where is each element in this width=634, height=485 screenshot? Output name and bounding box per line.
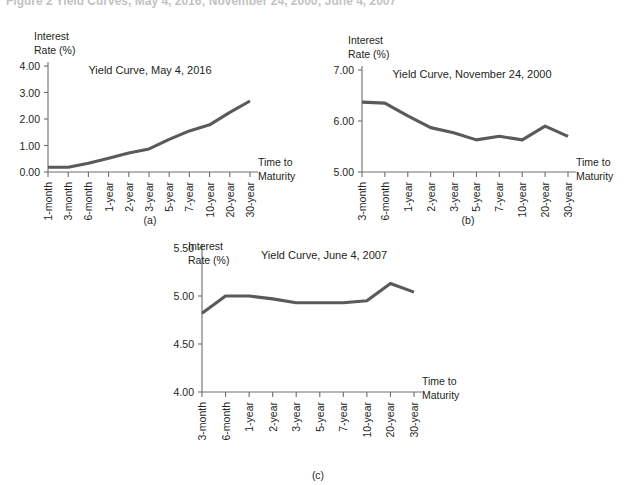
- y-axis-title: InterestRate (%): [348, 34, 389, 60]
- y-tick-label: 4.00: [20, 60, 41, 72]
- x-axis-title: Time toMaturity: [258, 156, 296, 182]
- chart-title: Yield Curve, November 24, 2000: [392, 68, 551, 80]
- x-tick-label: 6-month: [220, 402, 232, 441]
- x-tick-label: 5-year: [163, 182, 175, 212]
- y-tick-label: 4.00: [174, 386, 195, 398]
- x-tick-label: 7-year: [337, 402, 349, 432]
- x-tick-label: 7-year: [493, 182, 505, 212]
- x-tick-label: 7-year: [183, 182, 195, 212]
- chart-panel-a: 0.001.002.003.004.001-month3-month6-mont…: [0, 14, 318, 230]
- chart-title: Yield Curve, May 4, 2016: [88, 64, 211, 76]
- svg-text:Time to: Time to: [258, 156, 293, 168]
- svg-text:Time to: Time to: [422, 375, 457, 387]
- svg-text:Interest: Interest: [348, 34, 383, 46]
- y-tick-label: 1.00: [20, 140, 41, 152]
- x-tick-label: 6-month: [82, 182, 94, 221]
- chart-title: Yield Curve, June 4, 2007: [261, 249, 387, 261]
- svg-text:Interest: Interest: [188, 240, 223, 252]
- figure-caption: Figure 2 Yield Curves, May 4, 2016; Nove…: [6, 0, 396, 8]
- x-tick-label: 2-year: [425, 182, 437, 212]
- yield-curve-chart-c: 4.004.505.005.503-month6-month1-year2-ye…: [152, 238, 482, 485]
- y-axis-ticks: 0.001.002.003.004.00: [20, 60, 48, 178]
- svg-text:Rate (%): Rate (%): [348, 48, 389, 60]
- chart-panel-c: 4.004.505.005.503-month6-month1-year2-ye…: [152, 238, 482, 485]
- chart-panel-b: 5.006.007.003-month6-month1-year2-year3-…: [320, 14, 634, 230]
- x-tick-label: 10-year: [361, 402, 373, 438]
- x-tick-label: 10-year: [516, 182, 528, 218]
- x-tick-label: 3-year: [143, 182, 155, 212]
- x-tick-label: 30-year: [244, 182, 256, 218]
- y-tick-label: 7.00: [334, 64, 355, 76]
- x-tick-label: 5-year: [314, 402, 326, 432]
- x-tick-label: 1-year: [103, 182, 115, 212]
- x-tick-label: 6-month: [379, 182, 391, 221]
- yield-curve-series: [362, 102, 568, 140]
- y-tick-label: 0.00: [20, 166, 41, 178]
- svg-text:Interest: Interest: [34, 30, 69, 42]
- svg-text:Rate (%): Rate (%): [188, 254, 229, 266]
- y-axis-title: InterestRate (%): [188, 240, 229, 266]
- x-tick-label: 3-year: [290, 402, 302, 432]
- svg-text:Rate (%): Rate (%): [34, 44, 75, 56]
- x-tick-label: 2-year: [123, 182, 135, 212]
- svg-text:Maturity: Maturity: [576, 170, 614, 182]
- panel-letter: (b): [462, 214, 475, 226]
- x-axis-ticks: 3-month6-month1-year2-year3-year5-year7-…: [196, 392, 420, 441]
- y-tick-label: 4.50: [174, 338, 195, 350]
- x-tick-label: 1-year: [243, 402, 255, 432]
- axes: [48, 62, 258, 172]
- x-tick-label: 30-year: [562, 182, 574, 218]
- x-tick-label: 3-year: [448, 182, 460, 212]
- yield-curve-chart-b: 5.006.007.003-month6-month1-year2-year3-…: [320, 14, 634, 230]
- y-tick-label: 3.00: [20, 87, 41, 99]
- svg-text:Maturity: Maturity: [422, 389, 460, 401]
- x-tick-label: 20-year: [224, 182, 236, 218]
- panel-letter: (a): [144, 214, 157, 226]
- y-axis-ticks: 5.006.007.00: [334, 64, 362, 178]
- x-tick-label: 3-month: [196, 402, 208, 441]
- x-tick-label: 30-year: [408, 402, 420, 438]
- y-axis-title: InterestRate (%): [34, 30, 75, 56]
- x-tick-label: 5-year: [470, 182, 482, 212]
- panel-letter: (c): [312, 469, 324, 481]
- axes: [202, 244, 422, 392]
- yield-curve-series: [202, 284, 414, 314]
- x-tick-label: 3-month: [62, 182, 74, 221]
- x-tick-label: 2-year: [267, 402, 279, 432]
- x-tick-label: 10-year: [204, 182, 216, 218]
- y-tick-label: 5.00: [174, 290, 195, 302]
- x-tick-label: 1-year: [402, 182, 414, 212]
- y-tick-label: 6.00: [334, 115, 355, 127]
- y-tick-label: 2.00: [20, 113, 41, 125]
- svg-text:Maturity: Maturity: [258, 170, 296, 182]
- axes: [362, 66, 576, 172]
- y-tick-label: 5.00: [334, 166, 355, 178]
- x-axis-title: Time toMaturity: [576, 156, 614, 182]
- yield-curve-chart-a: 0.001.002.003.004.001-month3-month6-mont…: [0, 14, 318, 230]
- yield-curve-series: [48, 101, 250, 167]
- svg-text:Time to: Time to: [576, 156, 611, 168]
- x-tick-label: 20-year: [384, 402, 396, 438]
- x-tick-label: 20-year: [539, 182, 551, 218]
- x-tick-label: 3-month: [356, 182, 368, 221]
- x-axis-title: Time toMaturity: [422, 375, 460, 401]
- x-tick-label: 1-month: [42, 182, 54, 221]
